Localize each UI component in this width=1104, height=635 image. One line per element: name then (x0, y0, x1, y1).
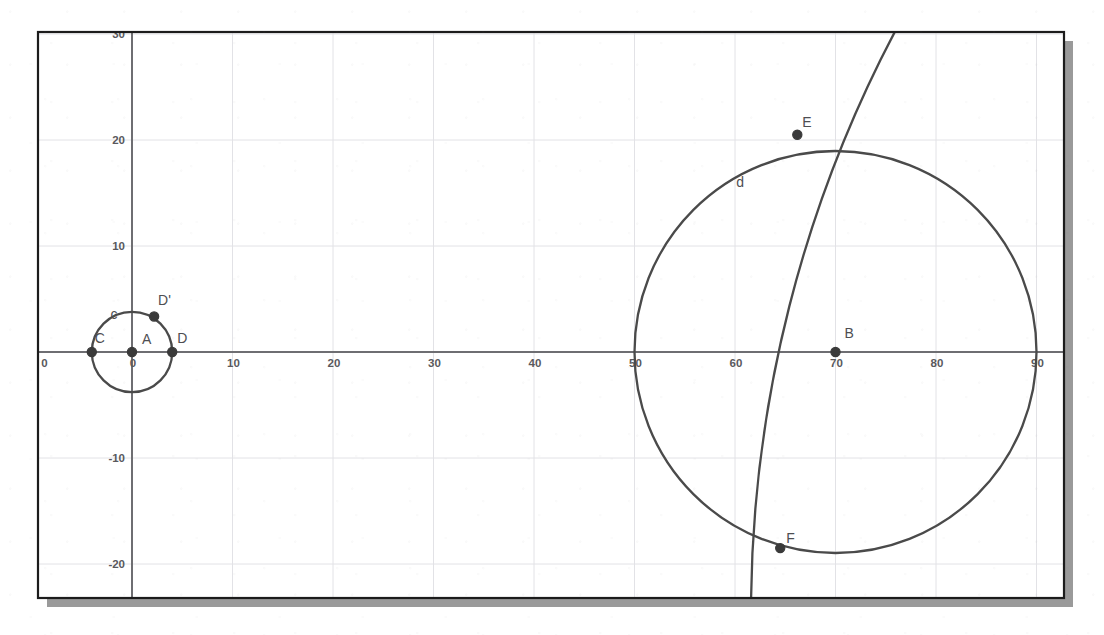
y-tick-10: 10 (112, 240, 125, 252)
point-A (127, 347, 136, 356)
diagram-canvas: 01020304050607080900302010-10-20 cd ABCD… (0, 0, 1104, 635)
x-tick-edge: 0 (41, 357, 47, 369)
y-tick-30: 30 (112, 28, 125, 40)
y-tick-20: 20 (112, 134, 125, 146)
point-D' (150, 312, 159, 321)
point-label-E: E (802, 114, 811, 130)
x-tick-40: 40 (529, 357, 542, 369)
x-tick-80: 80 (931, 357, 944, 369)
x-tick-10: 10 (227, 357, 240, 369)
geometry-svg: 01020304050607080900302010-10-20 cd ABCD… (0, 0, 1104, 635)
x-tick-30: 30 (428, 357, 441, 369)
point-C (87, 347, 96, 356)
plot-background-layer (38, 32, 1064, 598)
point-label-F: F (786, 530, 795, 546)
point-F (776, 544, 785, 553)
point-label-D: D (177, 330, 187, 346)
point-label-A: A (142, 331, 152, 347)
y-tick--10: -10 (108, 452, 125, 464)
point-label-C: C (95, 330, 105, 346)
y-tick--20: -20 (108, 558, 125, 570)
x-tick-20: 20 (328, 357, 341, 369)
x-tick-0: 0 (130, 357, 136, 369)
point-B (831, 347, 840, 356)
point-label-B: B (845, 325, 854, 341)
curve-label-d: d (736, 174, 744, 190)
point-D (168, 347, 177, 356)
point-E (793, 130, 802, 139)
x-tick-70: 70 (830, 357, 843, 369)
x-tick-60: 60 (730, 357, 743, 369)
point-label-D': D' (158, 292, 171, 308)
plot-background (38, 32, 1064, 598)
curve-label-c: c (110, 306, 117, 322)
